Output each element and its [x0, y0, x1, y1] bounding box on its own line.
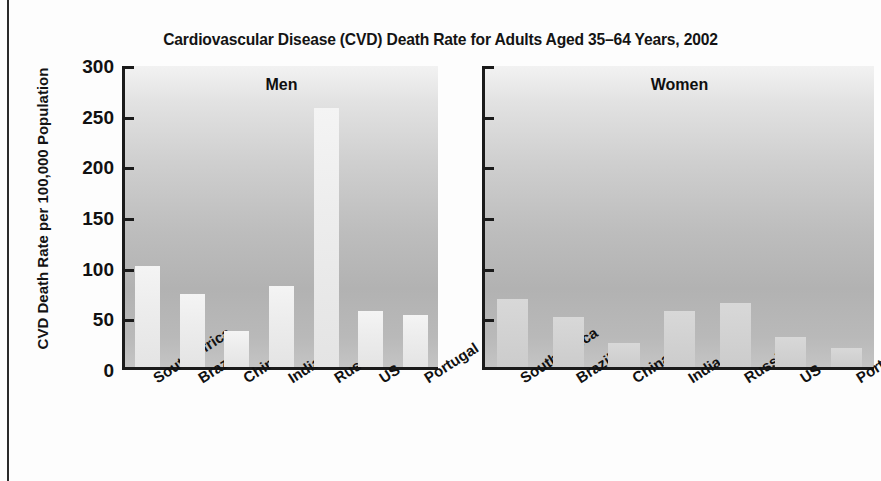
y-tick-mark [482, 269, 494, 272]
bar-cell [707, 66, 763, 367]
y-tick-mark [482, 218, 494, 221]
x-tick-label: India [285, 372, 294, 386]
bar [224, 331, 249, 367]
y-tick-mark [122, 269, 134, 272]
y-axis-title: CVD Death Rate per 100,000 Population [34, 49, 51, 369]
x-tick-label: US [376, 372, 385, 386]
y-tick-label: 200 [82, 158, 114, 177]
y-tick-label: 150 [82, 209, 114, 228]
bar [775, 337, 806, 367]
y-tick-mark [482, 117, 494, 120]
y-tick-mark [122, 117, 134, 120]
bar [497, 299, 528, 367]
bar [358, 311, 383, 367]
chart-title: Cardiovascular Disease (CVD) Death Rate … [35, 30, 846, 50]
y-tick-mark [122, 218, 134, 221]
y-tick-label: 50 [93, 310, 114, 329]
x-tick-label: Portugal [421, 372, 430, 386]
x-tick-label: India [685, 372, 694, 386]
y-tick-label: 250 [82, 107, 114, 126]
y-tick-label: 300 [82, 57, 114, 76]
bar [135, 266, 160, 367]
bar-cell [393, 66, 438, 367]
x-tick-label: Brazil [573, 372, 582, 386]
bar-cell [214, 66, 259, 367]
y-axis-tick-labels: 300250200150100500 [58, 56, 114, 380]
bar-cell [349, 66, 394, 367]
panel-women-y-ticks [482, 66, 494, 370]
bar [403, 315, 428, 367]
bar-cell [652, 66, 708, 367]
bar-cell [259, 66, 304, 367]
x-tick-label: Russia [331, 372, 340, 386]
x-tick-label: US [797, 372, 806, 386]
bar [720, 303, 751, 367]
panel-women-bars [485, 66, 874, 367]
x-tick-label: South Africa [517, 372, 526, 386]
panel-men-x-axis-labels: South AfricaBrazilChinaIndiaRussiaUSPort… [122, 372, 438, 467]
x-tick-label: Portugal [853, 372, 862, 386]
bar-cell [596, 66, 652, 367]
panel-women: Women [482, 66, 874, 370]
bar [664, 311, 695, 367]
y-tick-mark [122, 66, 134, 69]
y-tick-mark [482, 167, 494, 170]
bar-cell [304, 66, 349, 367]
y-tick-mark [122, 319, 134, 322]
chart-figure: Cardiovascular Disease (CVD) Death Rate … [0, 0, 881, 481]
bar-cell [818, 66, 874, 367]
bar-cell [541, 66, 597, 367]
y-tick-mark [482, 319, 494, 322]
x-tick-label: Russia [741, 372, 750, 386]
y-tick-label: 0 [103, 361, 114, 380]
bar [269, 286, 294, 367]
bar-cell [763, 66, 819, 367]
y-tick-mark [482, 66, 494, 69]
panel-women-title: Women [485, 76, 874, 94]
x-tick-label: China [240, 372, 249, 386]
panel-women-x-axis-labels: South AfricaBrazilChinaIndiaRussiaUSPort… [482, 372, 874, 467]
bar [180, 294, 205, 367]
bar [608, 343, 639, 367]
y-tick-label: 100 [82, 259, 114, 278]
x-tick-label: South Africa [150, 372, 159, 386]
panel-men: Men [122, 66, 438, 370]
panel-men-y-ticks [122, 66, 134, 370]
y-tick-mark [122, 167, 134, 170]
x-tick-label: Brazil [195, 372, 204, 386]
panel-men-title: Men [125, 76, 438, 94]
panel-men-bars [125, 66, 438, 367]
x-tick-label: China [629, 372, 638, 386]
bar [831, 348, 862, 367]
bar [553, 317, 584, 367]
bar-cell [170, 66, 215, 367]
bar [314, 108, 339, 367]
